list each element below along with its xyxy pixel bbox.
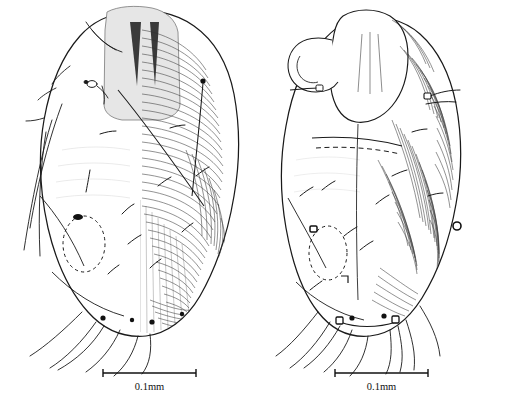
illustration-plate: 0.1mm — [0, 0, 518, 398]
right-scalebar: 0.1mm — [335, 369, 428, 392]
left-scalebar-label: 0.1mm — [135, 381, 164, 392]
left-genital-pore — [73, 214, 83, 220]
right-dorsal-pore — [453, 222, 461, 230]
left-scalebar: 0.1mm — [103, 369, 196, 392]
right-scalebar-label: 0.1mm — [367, 381, 396, 392]
left-propodosomal-shield — [100, 4, 186, 124]
right-anterior-seta-socket — [316, 85, 323, 91]
right-lateral-process — [288, 38, 338, 92]
right-specimen-drawing: 0.1mm — [276, 10, 461, 392]
right-genital-pore — [310, 226, 317, 232]
left-long-seta-base — [200, 78, 205, 83]
specimen-figure-group: 0.1mm — [0, 0, 518, 398]
left-specimen-drawing: 0.1mm — [24, 4, 239, 392]
